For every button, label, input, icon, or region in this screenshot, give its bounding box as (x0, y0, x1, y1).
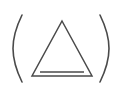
logo-mark-svg (0, 0, 122, 108)
logo-figure (0, 0, 122, 108)
logo-background (0, 0, 122, 108)
